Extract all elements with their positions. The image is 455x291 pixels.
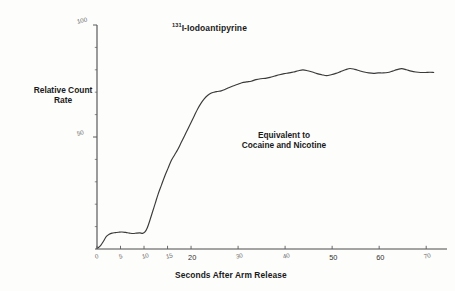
x-axis: [95, 246, 447, 249]
y-axis-label: Relative Count Rate: [22, 85, 104, 106]
x-tick-label: 50: [329, 253, 337, 262]
x-axis-label: Seconds After Arm Release: [175, 270, 287, 280]
x-tick-label: 20: [188, 253, 196, 262]
chart-title: 131I-Iodoantipyrine: [172, 22, 247, 33]
y-axis-label-line2: Rate: [22, 95, 104, 105]
y-axis-ticks: [93, 25, 97, 227]
chart-annotation-line2: Cocaine and Nicotine: [228, 140, 340, 150]
chart-annotation: Equivalent to Cocaine and Nicotine: [228, 130, 340, 150]
chart-title-text: I-Iodoantipyrine: [182, 23, 247, 33]
x-tick-label: 15: [165, 251, 173, 259]
chart-figure: 131I-Iodoantipyrine Relative Count Rate …: [0, 0, 455, 291]
x-tick-label: 60: [376, 253, 384, 262]
chart-title-superscript: 131: [172, 22, 182, 28]
chart-annotation-line1: Equivalent to: [228, 130, 340, 140]
y-axis: [93, 25, 97, 249]
y-axis-label-line1: Relative Count: [22, 85, 104, 95]
data-series-line: [98, 68, 434, 247]
